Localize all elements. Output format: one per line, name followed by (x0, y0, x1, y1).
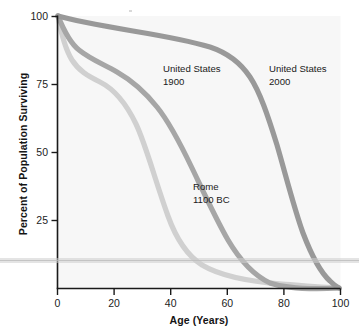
x-tick-label-100: 100 (321, 297, 359, 309)
x-tick-label-40: 40 (151, 297, 191, 309)
y-tick-label-100: 100 (12, 10, 48, 22)
plot-canvas (0, 0, 359, 335)
x-tick-label-0: 0 (38, 297, 78, 309)
annotation-united-states-2000: United States 2000 (269, 63, 327, 88)
annotation-rome-1100-bc: Rome 1100 BC (193, 181, 230, 206)
scan-artifact-speck (129, 10, 132, 12)
plot-background (58, 16, 341, 288)
x-tick-label-20: 20 (94, 297, 134, 309)
annotation-united-states-1900: United States 1900 (163, 63, 221, 88)
y-axis-ticks (52, 17, 58, 221)
x-tick-label-60: 60 (207, 297, 247, 309)
x-tick-label-80: 80 (264, 297, 304, 309)
survivorship-curve-chart: 100 75 50 25 0 20 40 60 80 100 Percent o… (0, 0, 359, 335)
y-axis-title: Percent of Population Surviving (17, 39, 29, 269)
x-axis-title: Age (Years) (57, 314, 341, 326)
